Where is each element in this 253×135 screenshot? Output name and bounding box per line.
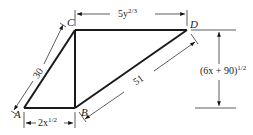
dimension-height-label: (6x + 90)1/2 — [200, 64, 247, 77]
quadrilateral-shape — [24, 30, 187, 108]
vertex-label-D: D — [189, 18, 198, 30]
dimension-BD-label: 51 — [131, 73, 146, 88]
vertex-label-B: B — [81, 106, 88, 118]
dimension-CD-label: 5y2/3 — [118, 7, 137, 19]
edge-DB — [75, 30, 187, 108]
dimension-AB-label: 2x1/2 — [38, 116, 57, 128]
vertex-label-C: C — [67, 16, 75, 28]
edge-AC — [24, 30, 75, 108]
vertex-label-A: A — [13, 108, 21, 120]
diagram-canvas: 30 5y2/3 51 2x1/2 (6x + 90)1/2 A B C D — [0, 0, 253, 135]
